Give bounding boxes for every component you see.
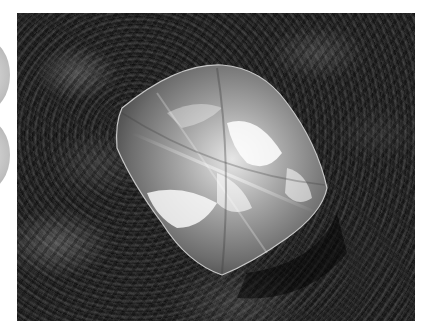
diamond-photo xyxy=(17,13,415,321)
decorative-circle xyxy=(0,120,10,190)
diamond-crystal xyxy=(17,13,415,321)
decorative-circle xyxy=(0,40,10,110)
